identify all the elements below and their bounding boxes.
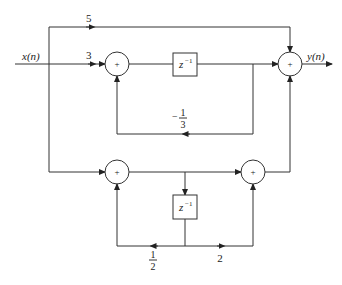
delay-z: z xyxy=(178,58,184,70)
delay-exp: −1 xyxy=(185,200,193,208)
upper-adder: + xyxy=(105,52,129,76)
output-label: y(n) xyxy=(306,50,325,63)
gain-upper-input: 3 xyxy=(86,49,92,61)
upper-delay-block: z −1 xyxy=(173,53,197,76)
fraction-sign: − xyxy=(172,111,178,122)
lower-delay-block: z −1 xyxy=(173,195,197,219)
gain-top-bypass: 5 xyxy=(86,12,92,24)
adder-plus: + xyxy=(114,59,119,69)
block-diagram: + z −1 + + z −1 xyxy=(0,0,342,285)
input-branch xyxy=(15,27,105,172)
adder-plus: + xyxy=(287,59,292,69)
adder-plus: + xyxy=(250,167,255,177)
delay-z: z xyxy=(178,201,184,213)
lower-adder-right: + xyxy=(241,160,265,184)
fraction-numerator: 1 xyxy=(181,107,186,118)
gain-upper-feedback: − 1 3 xyxy=(172,107,187,130)
gain-lower-feedforward: 2 xyxy=(217,252,223,264)
input-label: x(n) xyxy=(21,50,40,63)
adder-plus: + xyxy=(114,167,119,177)
fraction-denominator: 2 xyxy=(151,261,156,272)
output-adder: + xyxy=(278,52,302,76)
gain-lower-feedback: 1 2 xyxy=(149,249,157,272)
lower-adder-left: + xyxy=(105,160,129,184)
fraction-numerator: 1 xyxy=(151,249,156,260)
delay-exp: −1 xyxy=(185,57,193,65)
fraction-denominator: 3 xyxy=(181,119,186,130)
